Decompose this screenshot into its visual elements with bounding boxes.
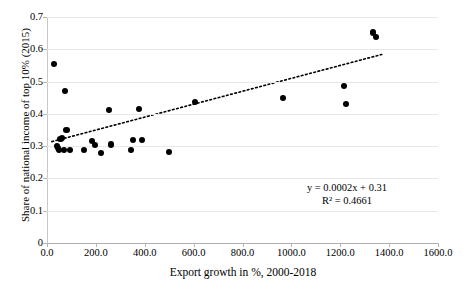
y-tick-mark	[43, 17, 47, 18]
trendline-equation-text: y = 0.0002x + 0.31	[272, 181, 422, 194]
data-point	[139, 137, 145, 143]
y-tick-label: 0.3	[3, 141, 43, 151]
data-point	[343, 101, 349, 107]
y-tick-label: 0.6	[3, 44, 43, 54]
trendline	[47, 17, 438, 243]
data-point	[106, 107, 112, 113]
data-point	[67, 147, 73, 153]
y-tick-mark	[43, 82, 47, 83]
x-tick-mark	[47, 243, 48, 247]
data-point	[108, 141, 114, 147]
x-tick-mark	[194, 243, 195, 247]
x-axis-tick-labels: 0.0200.0400.0600.0800.01000.01200.01400.…	[47, 247, 439, 261]
data-point	[92, 142, 98, 148]
x-tick-mark	[96, 243, 97, 247]
gridline	[47, 114, 438, 115]
y-tick-label: 0.7	[3, 12, 43, 22]
y-tick-mark	[43, 211, 47, 212]
gridline	[47, 178, 438, 179]
data-point	[373, 34, 379, 40]
data-point	[128, 147, 134, 153]
y-axis-tick-labels: 00.10.20.30.40.50.60.7	[0, 17, 43, 243]
y-tick-mark	[43, 178, 47, 179]
trendline-r-squared-text: R² = 0.4661	[272, 194, 422, 207]
plot-area	[47, 17, 438, 243]
data-point	[280, 95, 286, 101]
gridline	[47, 211, 438, 212]
gridline	[47, 17, 438, 18]
x-tick-mark	[243, 243, 244, 247]
data-point	[192, 99, 198, 105]
scatter-chart: Share of national income of top 10% (201…	[0, 0, 471, 291]
data-point	[130, 137, 136, 143]
y-tick-label: 0.2	[3, 173, 43, 183]
y-tick-label: 0.1	[3, 206, 43, 216]
x-tick-mark	[389, 243, 390, 247]
data-point	[59, 135, 65, 141]
x-tick-mark	[291, 243, 292, 247]
x-tick-label: 1600.0	[408, 247, 468, 259]
y-tick-mark	[43, 114, 47, 115]
data-point	[62, 88, 68, 94]
x-axis-title: Export growth in %, 2000-2018	[47, 266, 439, 278]
gridline	[47, 82, 438, 83]
x-tick-mark	[340, 243, 341, 247]
data-point	[136, 106, 142, 112]
x-tick-mark	[145, 243, 146, 247]
x-tick-mark	[438, 243, 439, 247]
y-tick-label: 0.5	[3, 77, 43, 87]
data-point	[166, 149, 172, 155]
gridline	[47, 146, 438, 147]
gridline	[47, 49, 438, 50]
data-point	[98, 150, 104, 156]
data-point	[63, 127, 69, 133]
y-tick-mark	[43, 146, 47, 147]
y-tick-mark	[43, 49, 47, 50]
data-point	[81, 147, 87, 153]
y-tick-label: 0.4	[3, 109, 43, 119]
data-point	[341, 83, 347, 89]
trendline-equation-annotation: y = 0.0002x + 0.31 R² = 0.4661	[272, 181, 422, 207]
data-point	[51, 61, 57, 67]
